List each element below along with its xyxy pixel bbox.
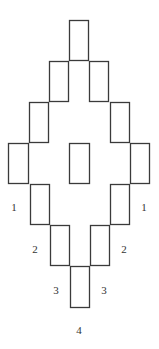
block-rect (70, 144, 90, 184)
label-2-right: 2 (121, 243, 127, 255)
block-rect (90, 62, 109, 102)
label-group: 1122334 (11, 201, 147, 336)
block-rect (131, 144, 150, 184)
block-rect (50, 62, 69, 102)
block-rect (30, 103, 49, 143)
block-rect (51, 226, 70, 266)
label-1-left: 1 (11, 201, 17, 213)
block-rect (111, 103, 130, 143)
label-4: 4 (76, 324, 82, 336)
block-rect (31, 185, 50, 225)
block-rect (91, 226, 110, 266)
block-rect (111, 185, 130, 225)
label-3-right: 3 (101, 284, 107, 296)
label-1-right: 1 (141, 201, 147, 213)
block-rect (70, 21, 89, 61)
diamond-block-diagram: 1122334 (0, 0, 159, 349)
block-group (9, 21, 150, 308)
block-rect (9, 144, 29, 184)
label-2-left: 2 (32, 243, 38, 255)
label-3-left: 3 (53, 284, 59, 296)
block-rect (71, 267, 90, 308)
